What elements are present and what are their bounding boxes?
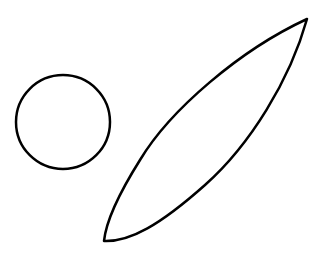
drawing-canvas — [0, 0, 329, 280]
leaf-shape — [104, 19, 307, 241]
circle-shape — [16, 75, 110, 169]
